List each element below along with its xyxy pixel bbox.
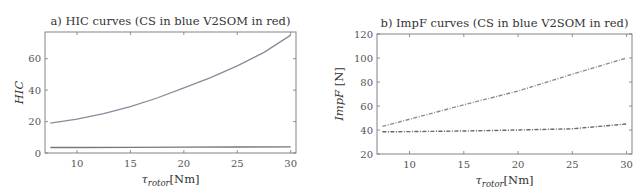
y-tick-label: 20 xyxy=(360,149,373,160)
x-tick-label: 10 xyxy=(71,158,84,169)
y-tick-label: 0 xyxy=(35,148,41,159)
x-axis-label: τrotor[Nm] xyxy=(475,173,533,189)
y-tick-label: 20 xyxy=(28,116,41,127)
x-tick-label: 30 xyxy=(284,158,297,169)
y-tick-label: 40 xyxy=(28,85,41,96)
y-axis-label: ImpF [N] xyxy=(332,67,346,122)
y-tick-label: 120 xyxy=(354,29,373,40)
y-tick-label: 60 xyxy=(360,101,373,112)
hic-chart-panel: a) HIC curves (CS in blue V2SOM in red)1… xyxy=(0,0,320,189)
series-line-v2som xyxy=(382,124,626,132)
x-tick-label: 15 xyxy=(124,158,137,169)
x-axis-label: τrotor[Nm] xyxy=(141,172,199,188)
x-tick-label: 20 xyxy=(512,159,525,170)
chart-title: b) ImpF curves (CS in blue V2SOM in red) xyxy=(381,16,629,30)
y-tick-label: 80 xyxy=(360,77,373,88)
y-tick-label: 40 xyxy=(360,125,373,136)
y-axis-label: HIC xyxy=(12,81,26,106)
chart-title: a) HIC curves (CS in blue V2SOM in red) xyxy=(51,14,291,28)
x-tick-label: 15 xyxy=(457,159,470,170)
series-line-cs xyxy=(382,58,626,126)
x-tick-label: 10 xyxy=(403,159,416,170)
x-tick-label: 25 xyxy=(231,158,244,169)
y-tick-label: 100 xyxy=(354,53,373,64)
x-tick-label: 25 xyxy=(566,159,579,170)
hic-chart: a) HIC curves (CS in blue V2SOM in red)1… xyxy=(0,0,320,189)
impf-chart-panel: b) ImpF curves (CS in blue V2SOM in red)… xyxy=(320,0,641,189)
x-tick-label: 30 xyxy=(620,159,633,170)
y-tick-label: 60 xyxy=(28,53,41,64)
series-line-cs xyxy=(50,35,290,123)
impf-chart: b) ImpF curves (CS in blue V2SOM in red)… xyxy=(320,0,641,189)
x-tick-label: 20 xyxy=(177,158,190,169)
series-line-v2som xyxy=(50,147,290,148)
